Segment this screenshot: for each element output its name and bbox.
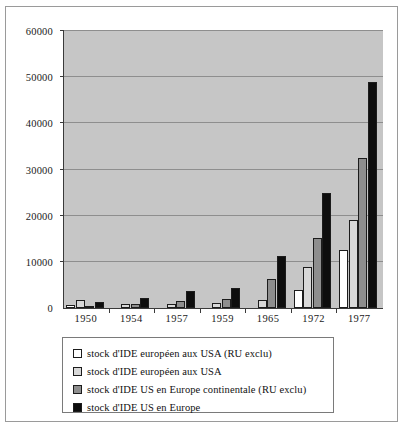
chart-legend: stock d'IDE européen aux USA (RU exclu)s… <box>62 337 334 413</box>
bar <box>85 306 94 308</box>
y-axis-tick-label: 30000 <box>26 164 53 175</box>
y-axis-tick-label: 0 <box>48 303 53 314</box>
bar <box>76 300 85 308</box>
legend-item: stock d'IDE US en Europe continentale (R… <box>73 381 333 398</box>
bar <box>186 291 195 308</box>
x-axis-tick-mark <box>200 309 201 313</box>
chart-frame: 0100002000030000400005000060000 19501954… <box>5 6 398 422</box>
legend-swatch-icon <box>73 403 82 412</box>
legend-item: stock d'IDE européen aux USA <box>73 363 333 380</box>
legend-swatch-icon <box>73 349 82 358</box>
y-axis-tick-mark <box>60 122 64 123</box>
legend-swatch-icon <box>73 385 82 394</box>
bar <box>222 299 231 308</box>
x-axis-tick-label: 1959 <box>211 313 234 324</box>
legend-item-label: stock d'IDE européen aux USA <box>87 366 222 377</box>
bar-group <box>66 31 104 308</box>
bar <box>176 301 185 308</box>
x-axis-tick-mark <box>336 309 337 313</box>
y-axis-tick-mark <box>60 261 64 262</box>
y-axis-tick-label: 50000 <box>26 72 53 83</box>
legend-item-label: stock d'IDE US en Europe <box>87 402 200 413</box>
x-axis: 1950195419571959196519721977 <box>63 313 382 333</box>
legend-item: stock d'IDE US en Europe <box>73 399 333 416</box>
bar <box>303 267 312 308</box>
legend-item-label: stock d'IDE européen aux USA (RU exclu) <box>87 348 272 359</box>
x-axis-tick-label: 1972 <box>302 313 325 324</box>
bar <box>267 279 276 308</box>
bar <box>66 305 75 308</box>
bar <box>313 238 322 308</box>
x-axis-tick-mark <box>291 309 292 313</box>
bar-group <box>203 31 241 308</box>
x-axis-tick-label: 1965 <box>257 313 280 324</box>
bar <box>231 288 240 308</box>
y-axis: 0100002000030000400005000060000 <box>6 31 59 309</box>
bar <box>140 298 149 308</box>
x-axis-tick-mark <box>154 309 155 313</box>
bar <box>368 82 377 308</box>
bar-group <box>112 31 150 308</box>
legend-item-label: stock d'IDE US en Europe continentale (R… <box>87 384 306 395</box>
bar-group <box>157 31 195 308</box>
y-axis-tick-mark <box>60 30 64 31</box>
plot-area <box>63 31 383 309</box>
bar <box>258 300 267 308</box>
bar <box>339 250 348 308</box>
bar <box>95 302 104 308</box>
y-axis-tick-label: 60000 <box>26 26 53 37</box>
y-axis-tick-mark <box>60 169 64 170</box>
bar <box>121 304 130 308</box>
bar <box>294 290 303 308</box>
bar-group <box>339 31 377 308</box>
bar <box>358 158 367 308</box>
y-axis-tick-mark <box>60 76 64 77</box>
bar <box>277 256 286 308</box>
x-axis-tick-label: 1950 <box>74 313 97 324</box>
bar-group <box>294 31 332 308</box>
y-axis-tick-label: 40000 <box>26 118 53 129</box>
legend-item: stock d'IDE européen aux USA (RU exclu) <box>73 345 333 362</box>
y-axis-tick-label: 20000 <box>26 210 53 221</box>
bar-group <box>248 31 286 308</box>
bar <box>322 193 331 308</box>
bar <box>167 304 176 308</box>
x-axis-tick-label: 1957 <box>166 313 189 324</box>
y-axis-tick-mark <box>60 215 64 216</box>
x-axis-tick-mark <box>245 309 246 313</box>
legend-swatch-icon <box>73 367 82 376</box>
x-axis-tick-label: 1954 <box>120 313 143 324</box>
bar <box>212 303 221 308</box>
x-axis-tick-mark <box>109 309 110 313</box>
bar <box>349 220 358 308</box>
y-axis-tick-label: 10000 <box>26 256 53 267</box>
bar <box>131 304 140 308</box>
x-axis-tick-label: 1977 <box>348 313 371 324</box>
